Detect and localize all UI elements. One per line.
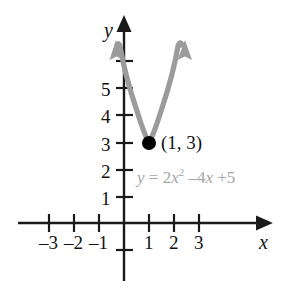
- equation-equals: =: [149, 168, 159, 187]
- y-tick-label-4: 4: [101, 107, 111, 126]
- x-tick-label-1: 1: [144, 233, 154, 252]
- equation-exponent: 2: [179, 166, 185, 178]
- vertex-point-label: (1, 3): [161, 133, 202, 152]
- equation-minus-sign: –: [188, 168, 197, 187]
- x-tick-label--1: –1: [89, 233, 108, 252]
- graph-figure: y x –3 –2 –1 1 2 3 5 4 3 2 1 (1, 3) y = …: [0, 0, 288, 290]
- y-axis-label: y: [104, 20, 113, 40]
- equation-lhs: y: [137, 168, 145, 187]
- x-tick-label--3: –3: [39, 233, 58, 252]
- equation-variable-1: x: [171, 168, 179, 187]
- parabola-curve: [117, 43, 182, 143]
- equation-plus-sign: +: [217, 168, 227, 187]
- equation-coefficient-a: 2: [163, 168, 172, 187]
- y-tick-label-3: 3: [101, 135, 111, 154]
- equation-annotation: y = 2x2 –4x +5: [137, 169, 235, 186]
- equation-variable-2: x: [205, 168, 213, 187]
- x-tick-label-2: 2: [169, 233, 179, 252]
- y-tick-label-5: 5: [101, 80, 111, 99]
- x-tick-label--2: –2: [64, 233, 83, 252]
- vertex-point-marker: [142, 136, 156, 150]
- x-tick-label-3: 3: [194, 233, 204, 252]
- y-tick-label-2: 2: [101, 162, 111, 181]
- y-tick-label-1: 1: [101, 189, 111, 208]
- equation-constant-c: 5: [227, 168, 236, 187]
- x-axis-label: x: [259, 232, 268, 252]
